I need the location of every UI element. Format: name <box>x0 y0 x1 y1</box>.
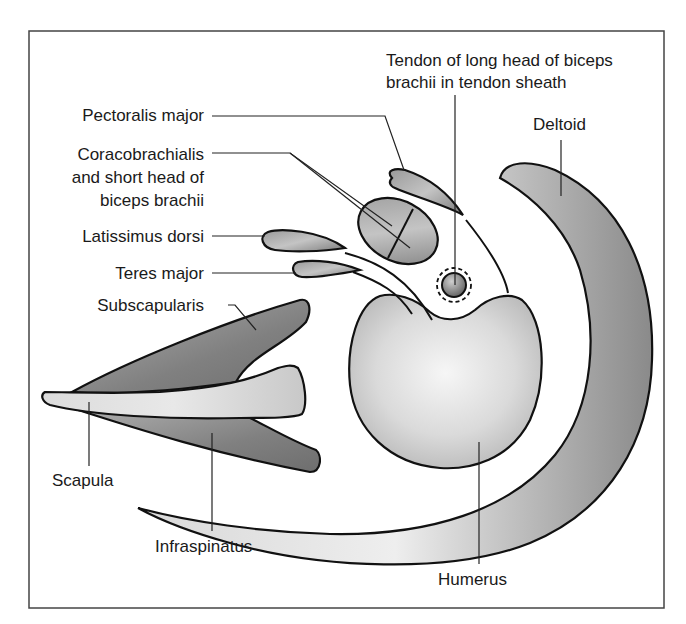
shoulder-cross-section-diagram: Tendon of long head of biceps brachii in… <box>0 0 686 624</box>
label-pectoralis-major: Pectoralis major <box>82 106 204 125</box>
label-tendon-line2: brachii in tendon sheath <box>386 73 567 92</box>
label-infraspinatus: Infraspinatus <box>155 537 252 556</box>
humerus-head <box>349 295 541 468</box>
label-coracobrachialis-line2: and short head of <box>72 168 205 187</box>
label-teres-major: Teres major <box>115 264 204 283</box>
label-deltoid: Deltoid <box>533 115 586 134</box>
label-scapula: Scapula <box>52 471 114 490</box>
label-tendon-line1: Tendon of long head of biceps <box>386 51 613 70</box>
label-humerus: Humerus <box>438 570 507 589</box>
label-coracobrachialis-line3: biceps brachii <box>100 191 204 210</box>
biceps-long-head-tendon <box>442 273 466 297</box>
label-coracobrachialis-line1: Coracobrachialis <box>77 145 204 164</box>
label-latissimus-dorsi: Latissimus dorsi <box>82 227 204 246</box>
label-subscapularis: Subscapularis <box>97 296 204 315</box>
